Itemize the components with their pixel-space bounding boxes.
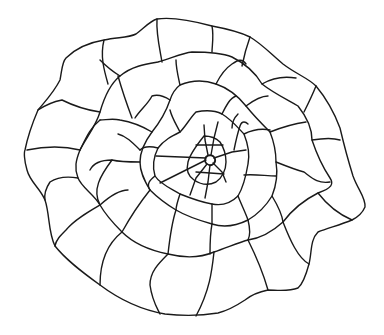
radial-wall xyxy=(156,156,206,158)
cell-wall xyxy=(100,190,128,205)
cell-wall xyxy=(100,60,120,76)
cell-wall xyxy=(148,176,155,190)
radial-wall xyxy=(204,125,208,155)
cell-wall xyxy=(176,194,180,210)
cell-wall xyxy=(90,160,140,170)
cell-wall xyxy=(238,196,248,220)
cell-wall xyxy=(135,95,170,118)
cell-wall xyxy=(272,196,283,222)
cell-wall xyxy=(27,147,80,150)
cell-wall xyxy=(97,160,112,205)
cell-wall xyxy=(118,134,140,150)
cell-wall xyxy=(102,40,108,84)
cell-wall xyxy=(216,60,246,84)
cell-wall xyxy=(157,19,162,62)
cell-wall xyxy=(196,252,214,316)
radial-wall xyxy=(214,150,246,158)
cell-wall xyxy=(242,37,250,66)
diagram-canvas xyxy=(0,0,384,335)
cell-wall xyxy=(283,222,309,264)
spiral-arm xyxy=(76,52,332,257)
spiral-cell-diagram: Line drawing of a spiral arrangement of … xyxy=(0,0,384,335)
cell-wall xyxy=(38,100,100,112)
cell-wall xyxy=(246,96,268,106)
cell-wall xyxy=(244,129,270,134)
radial-wall xyxy=(205,165,210,198)
cell-wall xyxy=(222,96,236,114)
cell-wall xyxy=(318,193,352,220)
cell-wall xyxy=(212,26,213,52)
cell-wall xyxy=(150,254,168,314)
cell-wall xyxy=(176,60,180,85)
cell-wall xyxy=(210,224,212,254)
cell-wall xyxy=(45,177,78,200)
cell-wall xyxy=(100,232,122,285)
cell-wall xyxy=(55,205,100,246)
cell-wall xyxy=(244,175,276,176)
cell-wall xyxy=(312,139,340,141)
radial-wall xyxy=(160,160,206,183)
cell-wall xyxy=(248,240,268,290)
cell-wall xyxy=(168,210,176,254)
cell-wall xyxy=(122,190,150,232)
cell-wall xyxy=(304,86,316,112)
cell-wall xyxy=(270,122,306,132)
cell-wall xyxy=(170,110,180,132)
radial-wall xyxy=(211,122,218,155)
cell-wall xyxy=(100,119,152,132)
cell-wall xyxy=(118,76,132,118)
cell-wall xyxy=(248,220,250,240)
cell-wall xyxy=(262,77,296,84)
